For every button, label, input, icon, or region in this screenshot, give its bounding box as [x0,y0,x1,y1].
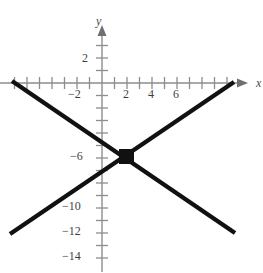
y-axis-label: y [96,14,101,29]
y-tick-label--10: −10 [62,199,81,214]
x-tick-label-4: 4 [148,87,154,102]
x-axis-label: x [256,76,261,91]
x-tick-label-6: 6 [173,87,179,102]
y-tick-label--14: −14 [62,249,81,264]
intersection-point-marker [119,149,134,164]
y-tick-label--12: −12 [62,224,81,239]
x-tick-label--2: −2 [68,87,81,102]
y-tick-label--6: −6 [70,149,83,164]
plot-canvas [0,0,263,273]
y-tick-label-2: 2 [82,51,88,66]
x-axis-arrow-icon [237,79,248,88]
graph-figure: −2 2 4 6 2 −6 −10 −12 −14 y x [0,0,263,273]
x-tick-label-2: 2 [123,87,129,102]
